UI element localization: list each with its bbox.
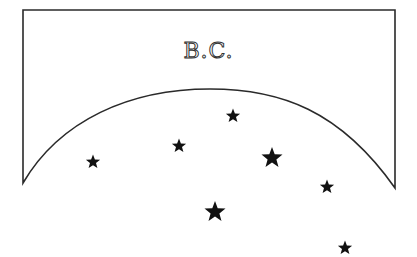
star-icon [262,147,283,167]
bc-label: B.C. [0,38,417,63]
bc-frame-shape [23,10,395,188]
star-icon [338,241,352,255]
star-icon [226,109,240,123]
star-icon [172,139,186,153]
star-icon [86,155,100,169]
star-group [86,109,352,255]
star-icon [320,180,334,194]
star-icon [205,201,226,221]
